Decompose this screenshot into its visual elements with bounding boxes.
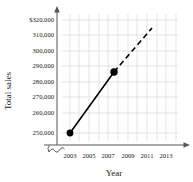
- x-tick-label: 2011: [141, 152, 154, 159]
- data-point-marker: [110, 68, 117, 75]
- y-tick-label: 310,000: [33, 31, 55, 38]
- y-tick-label: 270,000: [33, 93, 55, 100]
- y-tick-label: $320,000: [29, 16, 54, 23]
- grid-lines: [62, 14, 178, 141]
- x-tick-label: 2009: [121, 152, 135, 159]
- y-axis-title: Total sales: [3, 71, 13, 110]
- y-tick-label: 290,000: [33, 62, 55, 69]
- axis-break-icon: [49, 148, 65, 152]
- y-tick-label: 250,000: [33, 129, 55, 136]
- axes: [44, 6, 190, 148]
- x-axis-arrow-icon: [184, 142, 191, 148]
- series-line-projected: [114, 28, 152, 72]
- x-tick-label: 2013: [159, 152, 173, 159]
- y-tick-label: 260,000: [33, 109, 55, 116]
- series-line-observed: [70, 72, 114, 133]
- y-tick-labels: $320,000 310,000 300,000 290,000 280,000…: [29, 16, 54, 136]
- chart-svg: $320,000 310,000 300,000 290,000 280,000…: [0, 0, 193, 182]
- y-tick-label: 300,000: [33, 47, 55, 54]
- x-tick-labels: 2003 2005 2007 2009 2011 2013: [63, 152, 173, 159]
- x-tick-label: 2003: [63, 152, 77, 159]
- data-point-marker: [67, 130, 74, 137]
- y-tick-label: 280,000: [33, 78, 55, 85]
- y-axis-arrow-icon: [54, 6, 60, 13]
- x-tick-label: 2005: [82, 152, 96, 159]
- line-chart: $320,000 310,000 300,000 290,000 280,000…: [0, 0, 193, 182]
- x-axis-title: Year: [106, 168, 123, 178]
- x-tick-label: 2007: [101, 152, 115, 159]
